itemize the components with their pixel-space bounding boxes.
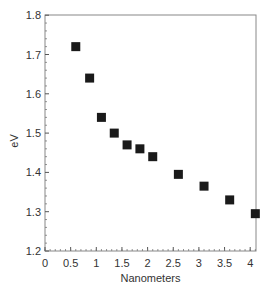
x-tick-label: 1 [93, 257, 99, 269]
data-point-marker [85, 74, 94, 83]
chart: 1.21.31.41.51.61.71.800.511.522.533.54Na… [0, 0, 273, 292]
data-point-marker [225, 195, 234, 204]
y-tick-label: 1.4 [26, 166, 41, 178]
x-tick-label: 0.5 [63, 257, 78, 269]
data-point-marker [97, 113, 106, 122]
y-axis-label: eV [8, 134, 20, 148]
data-point-marker [200, 182, 209, 191]
data-point-marker [148, 152, 157, 161]
x-tick-label: 0 [42, 257, 48, 269]
x-tick-label: 4 [247, 257, 253, 269]
scatter-plot: 1.21.31.41.51.61.71.800.511.522.533.54Na… [0, 0, 273, 292]
x-axis-label: Nanometers [121, 272, 181, 284]
data-point-marker [71, 42, 80, 51]
y-tick-label: 1.3 [26, 206, 41, 218]
data-point-marker [123, 140, 132, 149]
y-tick-label: 1.7 [26, 49, 41, 61]
y-tick-label: 1.6 [26, 88, 41, 100]
data-point-marker [251, 209, 260, 218]
y-tick-label: 1.5 [26, 127, 41, 139]
y-tick-label: 1.8 [26, 9, 41, 21]
data-point-marker [110, 129, 119, 138]
x-tick-label: 2 [145, 257, 151, 269]
y-tick-label: 1.2 [26, 245, 41, 257]
data-point-marker [174, 170, 183, 179]
x-tick-label: 3 [196, 257, 202, 269]
data-point-marker [135, 144, 144, 153]
x-tick-label: 3.5 [217, 257, 232, 269]
x-tick-label: 2.5 [166, 257, 181, 269]
x-tick-label: 1.5 [114, 257, 129, 269]
